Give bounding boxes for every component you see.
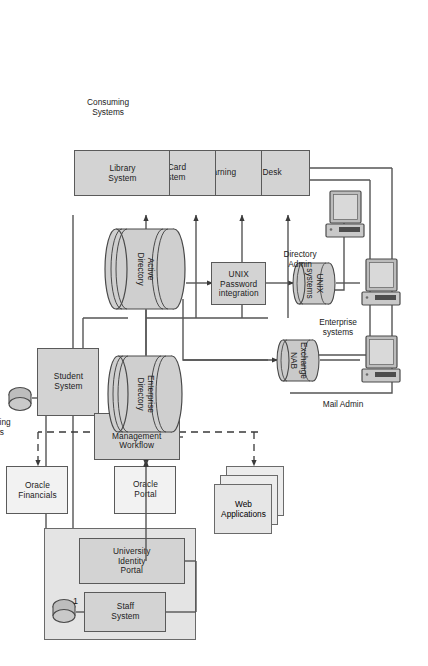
web-applications-sheet-front: Web Applications — [214, 484, 272, 534]
caption-mail-admin: Mail Admin — [338, 365, 358, 445]
caption-directory-admin: Directory Admin — [290, 220, 320, 300]
enterprise-directory-cylinder-shape — [107, 355, 183, 433]
node-staff-system[interactable]: Staff System — [84, 592, 166, 632]
enterprise-systems-pc-icon[interactable] — [358, 258, 402, 312]
node-unix-password-integration[interactable]: UNIX Password integration — [211, 262, 266, 305]
node-staff-system-label: Staff System — [108, 602, 142, 621]
node-oracle-portal[interactable]: Oracle Portal — [114, 466, 176, 514]
diagram-canvas: Help Desk eLearning ID Card System Libra… — [0, 0, 428, 666]
caption-provisioning-systems: Provisioning Systems — [0, 378, 8, 478]
student-system-database-icon — [8, 386, 32, 412]
node-student-system[interactable]: Student System — [37, 348, 99, 416]
node-web-applications[interactable]: Web Applications — [212, 466, 284, 538]
node-oracle-portal-label: Oracle Portal — [124, 480, 166, 499]
node-web-applications-label: Web Applications — [221, 499, 266, 518]
caption-connector-number-1: 1 — [70, 592, 92, 612]
node-oracle-financials-label: Oracle Financials — [18, 480, 56, 499]
exchange-nab-cylinder-shape — [276, 339, 320, 382]
caption-enterprise-systems: Enterprise systems — [328, 288, 358, 368]
node-active-directory[interactable]: Active Directory — [104, 228, 186, 310]
node-library-system-label: Library System — [108, 163, 136, 182]
node-unix-password-integration-label: UNIX Password integration — [219, 269, 259, 298]
node-student-system-label: Student System — [53, 372, 82, 391]
node-oracle-financials[interactable]: Oracle Financials — [6, 466, 68, 514]
node-university-identity-portal[interactable]: University Identity Portal — [79, 538, 185, 584]
directory-admin-pc-icon[interactable] — [322, 190, 366, 244]
caption-consuming-systems: Consuming Systems — [98, 58, 128, 158]
mail-admin-pc-icon[interactable] — [358, 335, 402, 389]
node-university-identity-portal-label: University Identity Portal — [112, 547, 152, 576]
node-enterprise-directory[interactable]: Enterprise Directory — [107, 355, 183, 433]
node-exchange-nab[interactable]: Exchange NAB — [276, 339, 320, 382]
active-directory-cylinder-shape — [104, 228, 186, 310]
